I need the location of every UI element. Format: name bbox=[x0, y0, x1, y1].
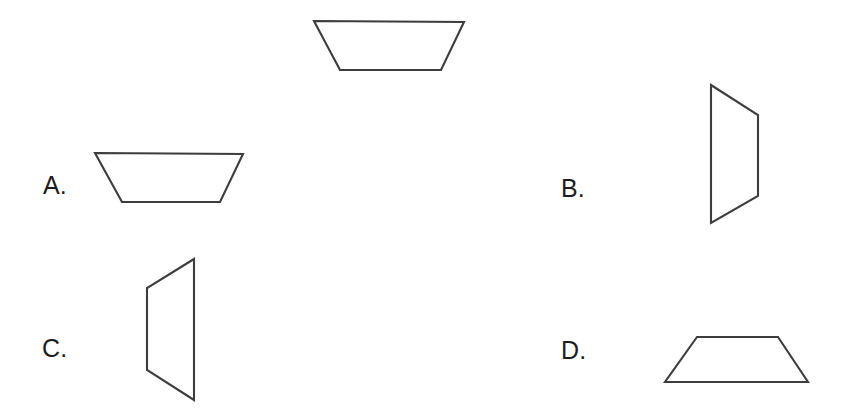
option-a-trapezoid[interactable] bbox=[95, 153, 243, 202]
option-label-c[interactable]: C. bbox=[42, 336, 67, 361]
option-label-a[interactable]: A. bbox=[43, 173, 67, 198]
figure-canvas: A. B. C. D. bbox=[0, 0, 847, 415]
option-d-trapezoid[interactable] bbox=[665, 337, 808, 382]
option-label-b[interactable]: B. bbox=[561, 176, 585, 201]
reference-trapezoid bbox=[314, 21, 464, 70]
option-b-trapezoid[interactable] bbox=[711, 85, 758, 223]
option-c-trapezoid[interactable] bbox=[147, 259, 194, 400]
shapes-illustration bbox=[0, 0, 847, 415]
option-label-d[interactable]: D. bbox=[561, 338, 586, 363]
